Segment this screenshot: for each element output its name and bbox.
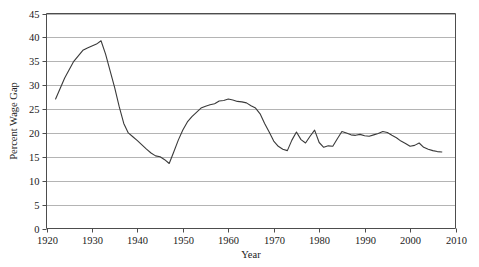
x-axis-tick-label: 1960 bbox=[218, 235, 239, 246]
x-axis-tick-label: 1930 bbox=[82, 235, 103, 246]
x-axis-tick-label: 1990 bbox=[355, 235, 376, 246]
x-axis-tick-label: 1940 bbox=[127, 235, 148, 246]
x-axis-tick-label: 1920 bbox=[37, 235, 58, 246]
y-axis-tick-label: 20 bbox=[29, 128, 40, 139]
x-axis-tick-label: 1970 bbox=[264, 235, 285, 246]
y-axis-tick-label: 5 bbox=[34, 200, 39, 211]
y-axis-title: Percent Wage Gap bbox=[8, 82, 19, 160]
y-axis-tick-label: 40 bbox=[29, 32, 40, 43]
y-axis-tick-label: 15 bbox=[29, 152, 40, 163]
y-axis-tick-label: 25 bbox=[29, 104, 40, 115]
x-axis-tick-label: 2010 bbox=[446, 235, 467, 246]
y-axis-tick-label: 10 bbox=[29, 176, 40, 187]
x-axis-title: Year bbox=[241, 249, 261, 260]
x-axis-tick-label: 1950 bbox=[173, 235, 194, 246]
wage-gap-line-chart: 051015202530354045 192019301940195019601… bbox=[0, 0, 479, 267]
y-axis-tick-label: 30 bbox=[29, 80, 40, 91]
chart-figure: 051015202530354045 192019301940195019601… bbox=[0, 0, 479, 267]
x-axis-tick-label: 2000 bbox=[400, 235, 421, 246]
x-axis-tick-label: 1980 bbox=[309, 235, 330, 246]
y-axis-tick-label: 45 bbox=[29, 9, 40, 20]
y-axis-tick-label: 35 bbox=[29, 56, 40, 67]
y-axis-tick-label: 0 bbox=[34, 224, 39, 235]
